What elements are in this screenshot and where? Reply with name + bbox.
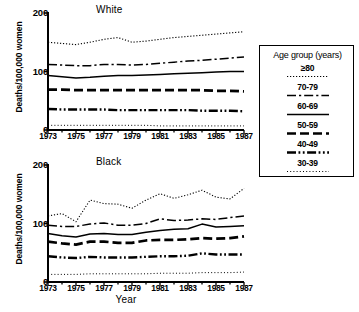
x-axis-label: Year	[0, 294, 252, 305]
series-line	[48, 188, 244, 221]
chart-title-white: White	[96, 4, 123, 15]
legend-line-swatch	[287, 112, 329, 117]
chart-title-black: Black	[96, 156, 121, 167]
legend-line-swatch	[287, 131, 329, 136]
legend-line-swatch	[287, 169, 329, 174]
x-tick-label: 1975	[67, 283, 84, 293]
x-tick-label: 1983	[179, 283, 196, 293]
x-tick-label: 1977	[95, 283, 112, 293]
series-line	[48, 125, 244, 126]
y-tick-label: 100	[22, 218, 48, 229]
legend-line-swatch	[287, 150, 329, 155]
y-tick-label: 200	[22, 7, 48, 18]
legend-entry-label: 40-49	[260, 139, 355, 149]
legend-entry-label: 30-39	[260, 158, 355, 168]
figure-root: Deaths/100,000 women White 200 100 0 197…	[0, 0, 359, 312]
series-line	[48, 253, 244, 258]
legend-title: Age group (years)	[260, 50, 355, 60]
chart-panel-black: Deaths/100,000 women Black 200 100 0 197…	[0, 152, 252, 302]
x-tick-label: 1985	[207, 283, 224, 293]
y-tick-label: 200	[22, 159, 48, 170]
legend-entry-label: 50-59	[260, 120, 355, 130]
legend-entry[interactable]: ≥80	[260, 63, 355, 79]
y-tick-labels-black: 200 100 0	[22, 152, 48, 302]
x-tick-label: 1983	[179, 131, 196, 141]
x-tick-label: 1987	[235, 131, 252, 141]
x-tick-label: 1981	[151, 283, 168, 293]
series-line	[48, 32, 244, 45]
legend-entry[interactable]: 30-39	[260, 158, 355, 174]
legend-entry-label: ≥80	[260, 63, 355, 73]
x-tick-label: 1973	[39, 131, 56, 141]
legend-entry[interactable]: 40-49	[260, 139, 355, 155]
x-tick-label: 1975	[67, 131, 84, 141]
x-tick-label: 1987	[235, 283, 252, 293]
legend-entry[interactable]: 50-59	[260, 120, 355, 136]
legend-entry-label: 70-79	[260, 82, 355, 92]
series-line	[48, 90, 244, 92]
legend-entry[interactable]: 60-69	[260, 101, 355, 117]
series-line	[48, 72, 244, 78]
y-tick-label: 100	[22, 66, 48, 77]
x-tick-label: 1973	[39, 283, 56, 293]
series-line	[48, 236, 244, 244]
legend-line-swatch	[287, 93, 329, 98]
legend-box: Age group (years) ≥8070-7960-6950-5940-4…	[259, 45, 354, 177]
y-tick-labels-white: 200 100 0	[22, 0, 48, 150]
x-tick-label: 1979	[123, 131, 140, 141]
legend-entry-label: 60-69	[260, 101, 355, 111]
series-line	[48, 272, 244, 274]
legend-entry[interactable]: 70-79	[260, 82, 355, 98]
x-tick-label: 1981	[151, 131, 168, 141]
x-tick-label: 1977	[95, 131, 112, 141]
x-tick-labels-white: 19731975197719791981198319851987	[0, 131, 252, 147]
series-line	[48, 109, 244, 111]
legend-line-swatch	[287, 74, 329, 79]
x-tick-label: 1979	[123, 283, 140, 293]
x-tick-label: 1985	[207, 131, 224, 141]
chart-panel-white: Deaths/100,000 women White 200 100 0 197…	[0, 0, 252, 150]
series-line	[48, 57, 244, 66]
series-line	[48, 216, 244, 227]
